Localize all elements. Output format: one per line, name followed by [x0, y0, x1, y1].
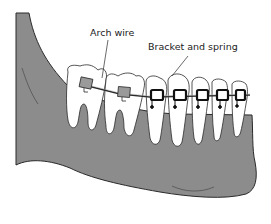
bracket-and-spring-label: Bracket and spring — [148, 42, 238, 52]
braces-diagram: Arch wire Bracket and spring — [0, 0, 271, 224]
arch-wire-label: Arch wire — [90, 28, 134, 38]
